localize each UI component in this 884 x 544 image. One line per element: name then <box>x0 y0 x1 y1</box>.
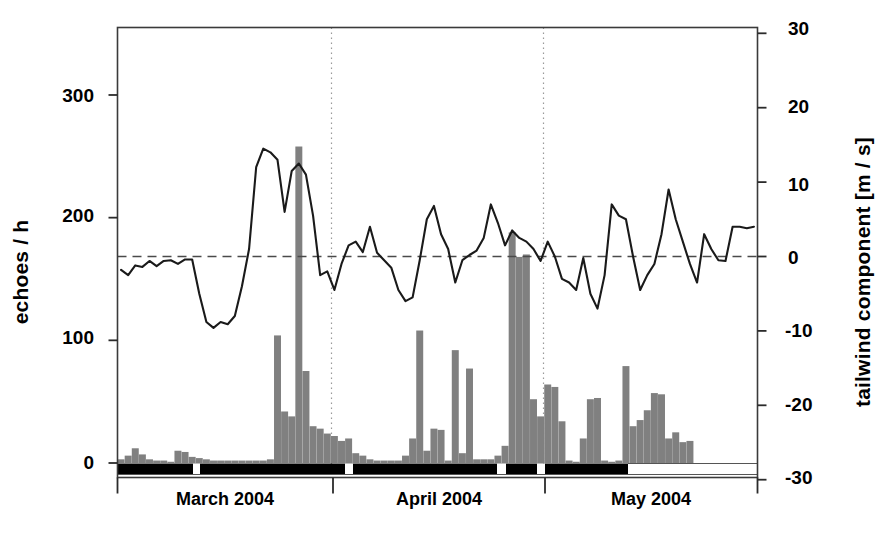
bar-d30 <box>324 434 331 463</box>
coverage-strip-gap-0 <box>193 464 200 475</box>
bar-d51 <box>473 459 480 463</box>
bar-d66 <box>580 438 587 463</box>
bar-d09 <box>174 451 181 463</box>
bar-d01 <box>118 459 125 463</box>
bar-d05 <box>146 459 153 463</box>
bar-d37 <box>374 461 381 463</box>
bar-d34 <box>352 453 359 463</box>
bar-d49 <box>459 453 466 463</box>
plot-canvas <box>0 0 884 544</box>
bar-d26 <box>295 147 302 463</box>
bar-d70 <box>608 462 615 463</box>
bar-d14 <box>210 461 217 463</box>
bar-d65 <box>573 462 580 463</box>
bar-d38 <box>381 461 388 463</box>
bar-d71 <box>615 461 622 463</box>
bar-d79 <box>672 432 679 463</box>
bar-d23 <box>274 335 281 463</box>
bar-d53 <box>487 459 494 463</box>
coverage-strip-gap-2 <box>497 464 506 475</box>
bar-d27 <box>302 371 309 463</box>
bar-d12 <box>196 458 203 463</box>
bar-d55 <box>502 446 509 463</box>
bar-d43 <box>416 331 423 463</box>
bar-d67 <box>587 399 594 463</box>
bar-d52 <box>480 459 487 463</box>
bar-d28 <box>310 426 317 463</box>
bar-d45 <box>430 429 437 463</box>
bar-d22 <box>267 459 274 463</box>
bar-d46 <box>438 430 445 463</box>
bar-d44 <box>423 451 430 463</box>
coverage-strip-gap-3 <box>537 464 545 475</box>
bar-d59 <box>530 399 537 463</box>
bar-d11 <box>189 457 196 463</box>
bar-d54 <box>494 456 501 463</box>
bar-d33 <box>345 438 352 463</box>
bar-d40 <box>395 461 402 463</box>
bar-d42 <box>409 438 416 463</box>
bar-d20 <box>253 461 260 463</box>
bar-d48 <box>452 350 459 463</box>
bar-d15 <box>217 461 224 463</box>
bar-d41 <box>402 456 409 463</box>
bar-d50 <box>466 369 473 463</box>
bar-d63 <box>558 421 565 463</box>
bar-d47 <box>445 461 452 463</box>
bar-d80 <box>679 442 686 463</box>
bar-d02 <box>125 456 132 463</box>
bar-d21 <box>260 461 267 463</box>
tailwind-line <box>121 149 754 328</box>
bar-d24 <box>281 411 288 463</box>
axis-ticks-layer <box>109 33 767 493</box>
bar-d08 <box>167 462 174 463</box>
bar-d10 <box>182 452 189 463</box>
bar-d61 <box>544 384 551 463</box>
bar-d03 <box>132 448 139 463</box>
bar-d58 <box>523 254 530 463</box>
bar-d68 <box>594 398 601 463</box>
bar-d72 <box>622 366 629 463</box>
bar-d74 <box>637 420 644 463</box>
bar-d75 <box>644 410 651 463</box>
bar-d17 <box>231 461 238 463</box>
bar-d56 <box>509 232 516 463</box>
bar-d16 <box>224 461 231 463</box>
bar-d25 <box>288 416 295 463</box>
bar-d06 <box>153 461 160 463</box>
bar-d77 <box>658 394 665 463</box>
bar-d19 <box>246 461 253 463</box>
bar-d73 <box>630 426 637 463</box>
tailwind-line-layer <box>121 149 754 328</box>
chart-figure: echoes / h tailwind component [m / s] 30… <box>0 0 884 544</box>
bar-d81 <box>686 441 693 463</box>
bar-d18 <box>238 461 245 463</box>
coverage-strip-gap-1 <box>345 464 353 475</box>
bar-d36 <box>366 459 373 463</box>
bar-d69 <box>601 461 608 463</box>
bar-d32 <box>338 441 345 463</box>
bar-d04 <box>139 454 146 463</box>
bar-d13 <box>203 459 210 463</box>
bar-d78 <box>665 438 672 463</box>
bar-d35 <box>359 456 366 463</box>
bar-d76 <box>651 393 658 463</box>
coverage-strip-layer <box>118 464 758 475</box>
bar-d57 <box>516 257 523 463</box>
bar-d60 <box>537 416 544 463</box>
bar-d39 <box>388 461 395 463</box>
bar-d29 <box>317 429 324 463</box>
bar-d31 <box>331 436 338 463</box>
bar-d07 <box>160 461 167 463</box>
bar-d64 <box>566 461 573 463</box>
bar-d62 <box>551 387 558 463</box>
bars-layer <box>118 147 694 463</box>
